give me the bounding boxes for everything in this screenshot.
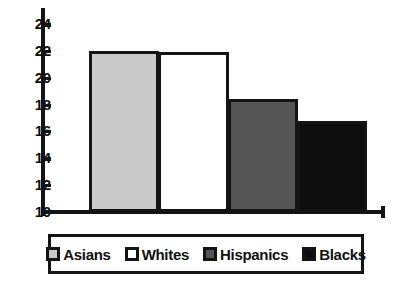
y-axis-tick-mark bbox=[45, 211, 51, 214]
legend-item-blacks[interactable]: Blacks bbox=[302, 247, 366, 262]
legend-item-whites[interactable]: Whites bbox=[125, 247, 189, 262]
y-axis-tick-mark bbox=[45, 157, 51, 160]
bar-whites bbox=[158, 52, 228, 212]
y-axis-tick-mark bbox=[45, 50, 51, 53]
legend-items: AsiansWhitesHispanicsBlacks bbox=[40, 247, 372, 262]
y-axis-tick-mark bbox=[45, 23, 51, 26]
y-axis-tick-mark bbox=[45, 77, 51, 80]
chart-legend: AsiansWhitesHispanicsBlacks bbox=[48, 234, 364, 274]
plot-area: 1012141618202224 bbox=[0, 0, 406, 226]
legend-item-hispanics[interactable]: Hispanics bbox=[203, 247, 288, 262]
bar-hispanics bbox=[228, 99, 298, 212]
y-axis-tick-mark bbox=[45, 184, 51, 187]
bar-asians bbox=[89, 51, 159, 212]
legend-label: Whites bbox=[142, 247, 189, 262]
y-axis-tick-mark bbox=[45, 104, 51, 107]
legend-swatch-icon bbox=[125, 247, 139, 261]
legend-label: Hispanics bbox=[220, 247, 288, 262]
x-axis-end-tick bbox=[381, 206, 385, 218]
bar-blacks bbox=[297, 121, 367, 212]
y-axis-tick-mark bbox=[45, 130, 51, 133]
legend-label: Asians bbox=[63, 247, 110, 262]
legend-label: Blacks bbox=[319, 247, 366, 262]
legend-swatch-icon bbox=[46, 247, 60, 261]
legend-swatch-icon bbox=[302, 247, 316, 261]
legend-item-asians[interactable]: Asians bbox=[46, 247, 110, 262]
bar-chart: 1012141618202224 AsiansWhitesHispanicsBl… bbox=[0, 0, 406, 284]
legend-swatch-icon bbox=[203, 247, 217, 261]
